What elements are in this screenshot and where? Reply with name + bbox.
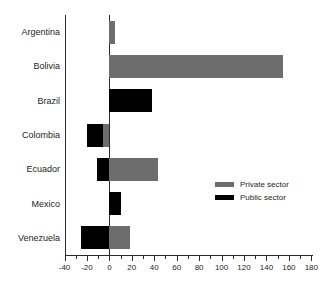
legend-swatch-icon <box>215 182 234 187</box>
legend-entry: Private sector <box>215 178 289 191</box>
x-axis-minor-tick <box>188 256 189 259</box>
x-axis-major-tick <box>132 256 133 261</box>
x-axis-major-tick <box>87 256 88 261</box>
category-label: Venezuela <box>0 232 60 244</box>
x-axis-major-tick <box>65 256 66 261</box>
category-label: Mexico <box>0 198 60 210</box>
x-axis-line <box>65 255 314 256</box>
x-axis-major-tick <box>244 256 245 261</box>
x-axis-major-tick <box>199 256 200 261</box>
x-axis-minor-tick <box>143 256 144 259</box>
x-axis-major-tick <box>154 256 155 261</box>
x-axis-major-tick <box>177 256 178 261</box>
legend-label: Public sector <box>240 193 286 202</box>
x-axis-minor-tick <box>76 256 77 259</box>
category-label: Brazil <box>0 95 60 107</box>
x-axis-minor-tick <box>278 256 279 259</box>
bar-private-sector-argentina <box>109 21 115 44</box>
x-axis-minor-tick <box>121 256 122 259</box>
legend-label: Private sector <box>240 180 289 189</box>
x-axis-tick-label: 180 <box>298 263 324 273</box>
category-label: Colombia <box>0 129 60 141</box>
bar-private-sector-ecuador <box>109 158 157 181</box>
bar-chart: -40-20020406080100120140160180ArgentinaB… <box>0 0 332 290</box>
x-axis-minor-tick <box>165 256 166 259</box>
x-axis-major-tick <box>109 256 110 261</box>
legend-swatch-icon <box>215 195 234 200</box>
x-axis-major-tick <box>311 256 312 261</box>
bar-public-sector-ecuador <box>97 158 109 181</box>
legend: Private sectorPublic sector <box>215 178 289 204</box>
x-axis-minor-tick <box>255 256 256 259</box>
x-axis-minor-tick <box>233 256 234 259</box>
x-axis-major-tick <box>266 256 267 261</box>
x-axis-minor-tick <box>300 256 301 259</box>
bar-private-sector-bolivia <box>109 55 283 78</box>
x-axis-minor-tick <box>98 256 99 259</box>
bar-private-sector-venezuela <box>109 226 129 249</box>
bar-public-sector-venezuela <box>81 226 109 249</box>
x-axis-major-tick <box>222 256 223 261</box>
x-axis-major-tick <box>289 256 290 261</box>
legend-entry: Public sector <box>215 191 289 204</box>
y-axis-line <box>65 15 66 255</box>
category-label: Bolivia <box>0 60 60 72</box>
category-label: Argentina <box>0 26 60 38</box>
zero-line <box>109 15 110 255</box>
bar-private-sector-colombia <box>103 124 110 147</box>
bar-public-sector-mexico <box>109 192 120 215</box>
category-label: Ecuador <box>0 163 60 175</box>
x-axis-minor-tick <box>210 256 211 259</box>
bar-public-sector-brazil <box>109 89 152 112</box>
